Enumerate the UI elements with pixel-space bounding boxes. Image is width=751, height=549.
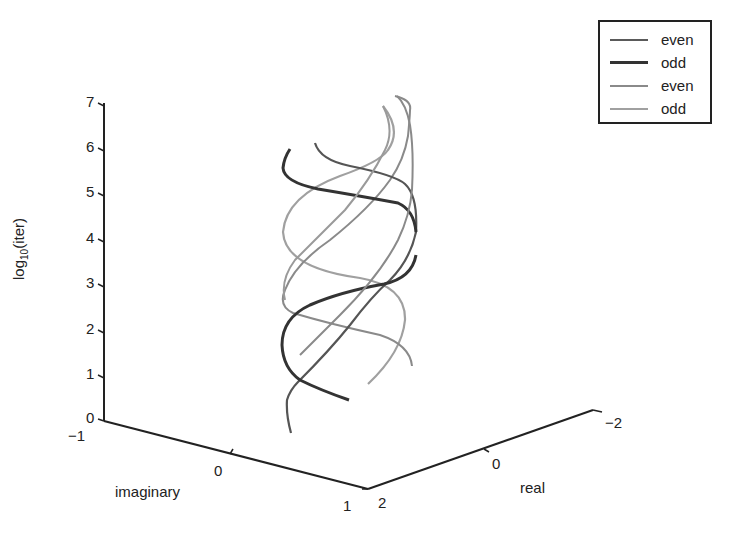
legend-item-even-dark: even [610,28,710,51]
z-tick-2: 2 [86,320,94,337]
real-tick-2: 2 [378,494,386,511]
z-tick-1: 1 [86,365,94,382]
z-axis-label: log10(iter) [10,218,30,280]
legend-swatch [610,108,648,110]
legend-swatch [610,39,648,41]
z-tick-6: 6 [86,138,94,155]
legend-item-even-light: even [610,74,710,97]
legend-swatch [610,85,648,87]
z-tick-4: 4 [86,229,94,246]
z-tick-5: 5 [86,183,94,200]
imag-tick-0: 0 [214,462,222,479]
z-tick-7: 7 [86,93,94,110]
real-tick-neg2: −2 [605,414,622,431]
helix-3d-chart: 7 6 5 4 3 2 1 0 log10(iter) −1 0 1 imagi… [0,0,751,549]
legend-item-odd-dark: odd [610,51,710,74]
legend-swatch [610,61,648,64]
real-axis-label: real [520,479,545,496]
imag-tick-neg1: −1 [68,427,85,444]
legend: even odd even odd [598,20,712,124]
imaginary-axis-label: imaginary [115,483,180,500]
imaginary-axis [104,421,368,489]
imag-tick-1: 1 [343,497,351,514]
legend-item-odd-light: odd [610,97,710,120]
z-tick-0: 0 [86,409,94,426]
z-tick-3: 3 [86,274,94,291]
real-tick-0: 0 [492,455,500,472]
real-axis [368,410,593,489]
